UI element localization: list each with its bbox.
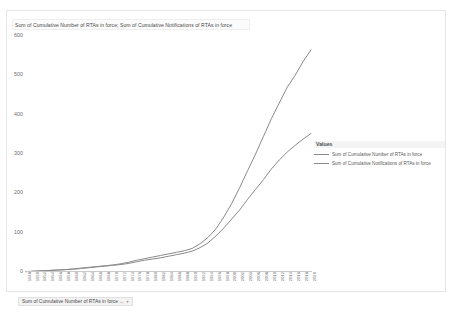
x-axis-tick-label: 1998 bbox=[226, 272, 230, 281]
x-axis-tick-label: 1960 bbox=[75, 272, 79, 281]
x-axis-tick-label: 2018 bbox=[305, 272, 309, 281]
x-axis-tick-label: 1982 bbox=[162, 272, 166, 281]
x-axis-tick-label: 2004 bbox=[249, 272, 253, 281]
legend-item[interactable]: Sum of Cumulative Number of RTAs in forc… bbox=[314, 150, 445, 159]
x-axis-tick-label: 1948 bbox=[28, 272, 32, 281]
x-axis-tick-label: 1956 bbox=[59, 272, 63, 281]
series-line bbox=[26, 50, 311, 272]
x-axis-tick-label: 1950 bbox=[36, 272, 40, 281]
legend-swatch bbox=[314, 154, 329, 155]
report-page: Sum of Cumulative Number of RTAs in forc… bbox=[0, 0, 453, 317]
x-axis-tick-label: 1966 bbox=[99, 272, 103, 281]
y-axis-tick-label: 200 bbox=[14, 191, 23, 196]
x-axis-tick-label: 2008 bbox=[265, 272, 269, 281]
series-line bbox=[26, 134, 311, 272]
x-axis-tick-label: 1994 bbox=[210, 272, 214, 281]
x-axis-tick-label: 1970 bbox=[115, 272, 119, 281]
x-axis-tick-label: 1980 bbox=[154, 272, 158, 281]
chevron-down-icon: ▾ bbox=[126, 298, 128, 306]
x-axis-tick-label: 1986 bbox=[178, 272, 182, 281]
legend-items: Sum of Cumulative Number of RTAs in forc… bbox=[314, 150, 445, 168]
x-axis-tick-label: 2000 bbox=[233, 272, 237, 281]
plot-area: 0100200300400500600 bbox=[26, 36, 311, 272]
y-axis-tick-label: 400 bbox=[14, 112, 23, 117]
y-axis-tick-label: 600 bbox=[14, 33, 23, 38]
x-axis-tick-label: 1988 bbox=[186, 272, 190, 281]
report-footer: Sum of Cumulative Number of RTAs in forc… bbox=[0, 293, 453, 317]
x-axis-tick-label: 1976 bbox=[138, 272, 142, 281]
x-axis-tick-label: 2006 bbox=[257, 272, 261, 281]
x-axis-tick-label: 1968 bbox=[107, 272, 111, 281]
legend-item-label: Sum of Cumulative Notifications of RTAs … bbox=[332, 161, 431, 166]
x-axis-tick-label: 1972 bbox=[123, 272, 127, 281]
legend-item-label: Sum of Cumulative Number of RTAs in forc… bbox=[332, 152, 422, 157]
x-axis-tick-label: 1990 bbox=[194, 272, 198, 281]
y-axis-tick-label: 500 bbox=[14, 73, 23, 78]
x-axis-tick-label: 1964 bbox=[91, 272, 95, 281]
legend-item[interactable]: Sum of Cumulative Notifications of RTAs … bbox=[314, 159, 445, 168]
x-axis-tick-label: 1974 bbox=[131, 272, 135, 281]
y-axis-tick-label: 300 bbox=[14, 151, 23, 156]
chart-legend: Values Sum of Cumulative Number of RTAs … bbox=[314, 141, 445, 175]
x-axis-tick-label: 2010 bbox=[273, 272, 277, 281]
y-axis-tick-label: 100 bbox=[14, 230, 23, 235]
x-axis-tick-label: 2014 bbox=[289, 272, 293, 281]
y-axis-tick-label: 0 bbox=[20, 269, 23, 274]
chart-title: Sum of Cumulative Number of RTAs in forc… bbox=[12, 19, 250, 30]
x-axis-tick-label: 2020 bbox=[313, 272, 317, 281]
x-axis-labels: 1948195019521954195619581960196219641966… bbox=[26, 272, 312, 290]
x-axis-tick-label: 2002 bbox=[241, 272, 245, 281]
series-lines bbox=[26, 36, 311, 272]
x-axis-tick-label: 2016 bbox=[297, 272, 301, 281]
x-axis-tick-label: 1996 bbox=[218, 272, 222, 281]
legend-swatch bbox=[314, 163, 329, 164]
footer-field-label: Sum of Cumulative Number of RTAs in forc… bbox=[22, 298, 123, 306]
x-axis-tick-label: 1992 bbox=[202, 272, 206, 281]
x-axis-tick-label: 1978 bbox=[146, 272, 150, 281]
x-axis-tick-label: 1954 bbox=[51, 272, 55, 281]
x-axis-tick-label: 1984 bbox=[170, 272, 174, 281]
x-axis-tick-label: 1952 bbox=[43, 272, 47, 281]
x-axis-tick-label: 2012 bbox=[281, 272, 285, 281]
x-axis-tick-label: 1958 bbox=[67, 272, 71, 281]
legend-title: Values bbox=[314, 141, 445, 148]
footer-field-chip[interactable]: Sum of Cumulative Number of RTAs in forc… bbox=[18, 297, 133, 306]
x-axis-tick-label: 1962 bbox=[83, 272, 87, 281]
